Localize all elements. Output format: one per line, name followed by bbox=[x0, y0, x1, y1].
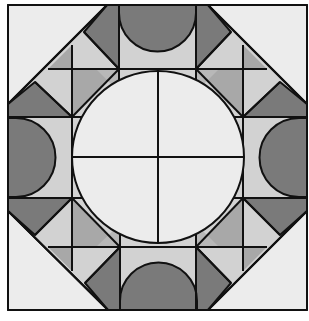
quilt-block-diagram bbox=[0, 0, 309, 321]
